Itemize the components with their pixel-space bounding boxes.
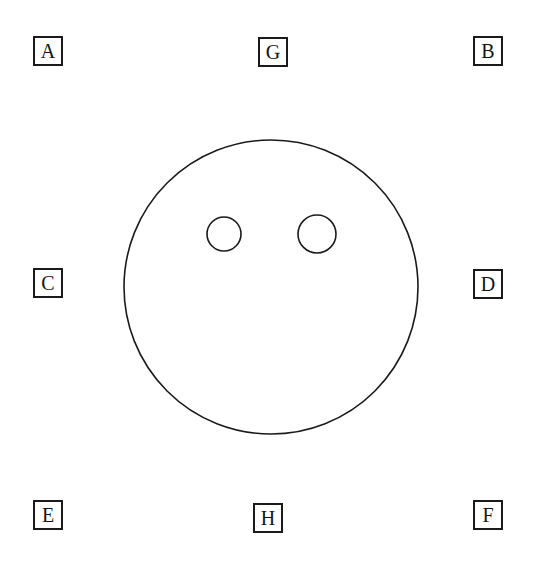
marker-b[interactable]: B: [473, 36, 503, 66]
marker-d[interactable]: D: [473, 269, 503, 299]
marker-b-label: B: [481, 41, 494, 61]
marker-h-label: H: [261, 508, 275, 528]
marker-d-label: D: [481, 274, 495, 294]
marker-c[interactable]: C: [33, 268, 63, 298]
diagram-canvas: A G B C D E H F: [0, 0, 546, 574]
marker-c-label: C: [41, 273, 54, 293]
marker-e-label: E: [42, 505, 54, 525]
marker-a[interactable]: A: [33, 36, 63, 66]
figure-shapes: [0, 0, 546, 574]
marker-a-label: A: [41, 41, 55, 61]
small-circle-left: [207, 217, 241, 251]
marker-g[interactable]: G: [258, 37, 288, 67]
marker-e[interactable]: E: [33, 500, 63, 530]
marker-f-label: F: [482, 505, 493, 525]
small-circle-right: [298, 215, 336, 253]
marker-g-label: G: [266, 42, 280, 62]
marker-h[interactable]: H: [253, 503, 283, 533]
marker-f[interactable]: F: [473, 500, 503, 530]
large-circle: [124, 140, 418, 434]
